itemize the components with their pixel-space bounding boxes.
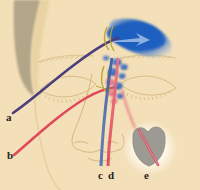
label-e: e [144, 170, 149, 181]
label-b: b [7, 150, 13, 161]
label-d: d [108, 170, 114, 181]
label-c: c [98, 170, 103, 181]
inset-detail [122, 120, 178, 176]
figure-canvas: a b c d e [0, 0, 200, 190]
illustration-svg [0, 0, 200, 190]
label-a: a [6, 112, 12, 123]
